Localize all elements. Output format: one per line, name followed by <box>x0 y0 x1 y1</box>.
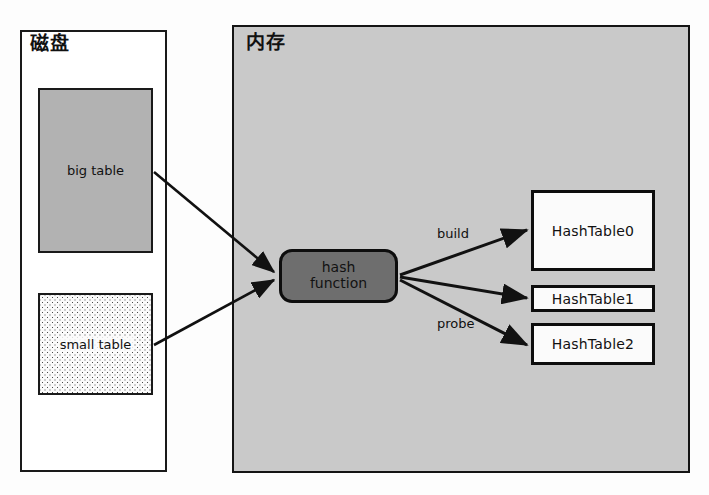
edge-label-build: build <box>437 226 469 241</box>
small-table-node: small table <box>38 293 153 395</box>
disk-container-label: 磁盘 <box>30 34 70 53</box>
edge-label-probe: probe <box>437 316 475 331</box>
hashtable2-label: HashTable2 <box>552 336 634 352</box>
memory-container-label: 内存 <box>246 33 286 52</box>
hashtable2-node: HashTable2 <box>531 323 655 365</box>
hashtable1-label: HashTable1 <box>552 291 634 307</box>
hashtable0-node: HashTable0 <box>531 190 655 271</box>
small-table-label: small table <box>58 337 134 352</box>
hashtable1-node: HashTable1 <box>531 285 655 312</box>
hash-function-label-line1: hash <box>322 260 356 276</box>
big-table-node: big table <box>38 88 153 253</box>
hash-function-label-line2: function <box>310 276 367 292</box>
hash-function-node: hash function <box>279 249 398 303</box>
big-table-label: big table <box>67 163 124 178</box>
hashtable0-label: HashTable0 <box>552 223 634 239</box>
diagram-canvas: 磁盘 内存 big table small table hash functio… <box>0 0 709 495</box>
